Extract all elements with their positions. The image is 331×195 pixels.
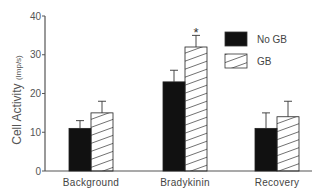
bar-group-background: Background (63, 101, 119, 188)
legend-swatch-no-gb (225, 32, 247, 46)
legend: No GBGB (225, 32, 287, 68)
significance-star: * (193, 25, 198, 40)
legend-swatch-gb (225, 54, 247, 68)
y-tick-label: 30 (30, 49, 42, 60)
bar-group-recovery: Recovery (255, 101, 300, 188)
bar-no-gb (163, 82, 185, 171)
y-tick-label: 0 (35, 166, 41, 177)
y-tick-label: 10 (30, 127, 42, 138)
bar-chart: 010203040Cell Activity (Imp/s)Background… (0, 0, 331, 195)
x-category-label: Bradykinin (160, 177, 210, 188)
bar-gb (91, 113, 113, 171)
x-category-label: Recovery (255, 177, 300, 188)
y-tick-label: 40 (30, 11, 42, 22)
bar-group-bradykinin: Bradykinin (160, 35, 210, 188)
bar-no-gb (255, 128, 277, 171)
y-tick-label: 20 (30, 88, 42, 99)
y-axis-label: Cell Activity (Imp/s) (10, 55, 24, 145)
plot-area: 010203040Cell Activity (Imp/s)Background… (10, 11, 312, 189)
legend-label: GB (257, 56, 272, 67)
legend-label: No GB (257, 34, 287, 45)
bar-gb (277, 117, 299, 171)
bar-gb (185, 47, 207, 171)
bar-no-gb (69, 128, 91, 171)
x-category-label: Background (63, 177, 119, 188)
